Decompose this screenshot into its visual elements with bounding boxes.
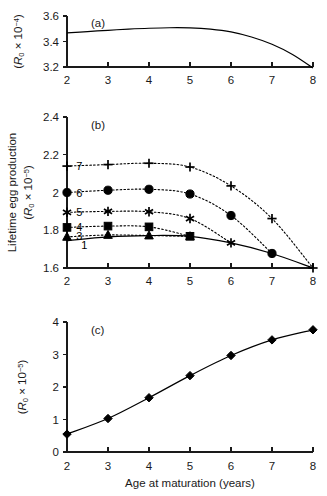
y-tick-label: 2	[53, 381, 59, 393]
x-tick-label: 5	[187, 74, 193, 86]
x-tick-label: 8	[310, 275, 316, 287]
series-4	[63, 222, 194, 240]
y-tick-label: 3.4	[43, 36, 60, 48]
panel-a: 3.63.43.22345678(a)(R0 × 10−4)	[12, 10, 317, 86]
x-tick-label: 5	[187, 460, 193, 472]
y-tick-label: 4	[53, 316, 60, 328]
marker-plus	[185, 162, 194, 171]
marker-diamond	[268, 336, 276, 344]
x-tick-label: 7	[269, 460, 275, 472]
panel-a-y-axis-label: (R0 × 10−4)	[12, 14, 27, 69]
x-tick-label: 2	[64, 460, 70, 472]
x-tick-label: 3	[105, 460, 111, 472]
x-tick-label: 4	[146, 460, 153, 472]
figure-x-axis-label: Age at maturation (years)	[125, 477, 255, 489]
marker-plus	[308, 263, 317, 272]
marker-square	[145, 223, 153, 231]
marker-plus	[226, 181, 235, 190]
y-tick-label: 1.8	[43, 224, 59, 236]
y-tick-label: 1.6	[43, 262, 59, 274]
marker-square	[63, 224, 71, 232]
x-tick-label: 4	[146, 74, 153, 86]
marker-star	[186, 214, 194, 223]
series-r0-total	[63, 326, 317, 439]
y-tick-label: 3.6	[43, 10, 59, 22]
marker-circle	[268, 249, 276, 257]
marker-plus	[62, 161, 71, 170]
panel-b-y-axis-units: (R0 × 10−5)	[22, 165, 37, 220]
marker-circle	[63, 188, 71, 196]
x-tick-label: 3	[105, 74, 111, 86]
marker-diamond	[104, 414, 112, 422]
figure-svg: 3.63.43.22345678(a)(R0 × 10−4)2.42.221.8…	[0, 0, 327, 496]
x-tick-label: 3	[105, 275, 111, 287]
series-label-6: 6	[76, 187, 82, 199]
marker-star	[63, 208, 71, 217]
x-tick-label: 2	[64, 275, 70, 287]
series-line-6	[67, 189, 272, 253]
panel-b: 2.42.221.81.62345678134567(b)Lifetime eg…	[6, 111, 318, 287]
marker-diamond	[63, 430, 71, 438]
marker-triangle	[63, 232, 72, 240]
y-tick-label: 0	[53, 446, 59, 458]
x-tick-label: 2	[64, 74, 70, 86]
panel-b-y-axis-title: Lifetime egg production	[6, 133, 18, 253]
marker-diamond	[145, 394, 153, 402]
x-tick-label: 6	[228, 460, 234, 472]
marker-triangle	[104, 230, 113, 238]
panel-c-axes	[67, 322, 313, 452]
marker-circle	[104, 186, 112, 194]
marker-plus	[103, 160, 112, 169]
y-tick-label: 1	[53, 414, 59, 426]
panel-a-curve	[67, 28, 313, 68]
marker-square	[186, 232, 194, 240]
series-label-7: 7	[76, 160, 82, 172]
series-label-5: 5	[76, 206, 82, 218]
marker-circle	[186, 190, 194, 198]
marker-circle	[145, 185, 153, 193]
panel-c: 432102345678(c)(R0 × 10−5)Age at maturat…	[16, 316, 318, 489]
marker-circle	[227, 211, 235, 219]
x-tick-label: 4	[146, 275, 153, 287]
series-label-4: 4	[76, 221, 82, 233]
panel-c-y-axis-label: (R0 × 10−5)	[16, 360, 31, 415]
x-tick-label: 8	[310, 460, 316, 472]
marker-diamond	[309, 326, 317, 334]
panel-a-tag: (a)	[91, 17, 105, 29]
marker-plus	[144, 159, 153, 168]
y-tick-label: 2	[53, 187, 59, 199]
marker-diamond	[227, 351, 235, 359]
series-6	[63, 185, 276, 257]
panel-c-tag: (c)	[91, 324, 105, 336]
y-tick-label: 3	[53, 349, 59, 361]
x-tick-label: 7	[269, 275, 275, 287]
figure-panel-group: 3.63.43.22345678(a)(R0 × 10−4)2.42.221.8…	[0, 0, 327, 496]
x-tick-label: 6	[228, 275, 234, 287]
marker-square	[104, 222, 112, 230]
y-tick-label: 3.2	[43, 61, 59, 73]
x-tick-label: 7	[269, 74, 275, 86]
y-tick-label: 2.4	[43, 111, 60, 123]
x-tick-label: 5	[187, 275, 193, 287]
x-tick-label: 8	[310, 74, 316, 86]
panel-b-tag: (b)	[91, 119, 105, 131]
y-tick-label: 2.2	[43, 149, 59, 161]
marker-diamond	[186, 371, 194, 379]
x-tick-label: 6	[228, 74, 234, 86]
